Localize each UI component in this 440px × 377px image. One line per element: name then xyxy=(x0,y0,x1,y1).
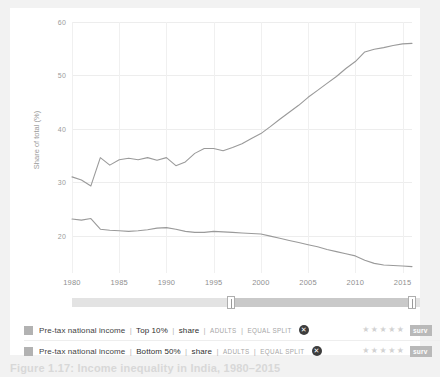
legend-separator: | xyxy=(185,347,187,356)
series-lines xyxy=(72,22,412,273)
legend-swatch xyxy=(24,347,33,356)
legend-row[interactable]: Pre-tax national income | Bottom 50% | s… xyxy=(24,340,440,361)
legend-row[interactable]: Pre-tax national income | Top 10% | shar… xyxy=(24,320,440,340)
y-tick-label: 30 xyxy=(58,179,66,186)
legend-separator: | xyxy=(216,347,218,356)
x-tick-label: 1980 xyxy=(63,278,81,287)
y-tick-label: 40 xyxy=(58,125,66,132)
legend-group: Bottom 50% xyxy=(136,347,181,356)
legend-separator: | xyxy=(130,326,132,335)
star-icon[interactable]: ★ xyxy=(362,326,369,334)
legend-group: Top 10% xyxy=(136,326,168,335)
x-tick-label: 2010 xyxy=(347,278,365,287)
star-icon[interactable]: ★ xyxy=(371,326,378,334)
legend-swatch xyxy=(24,326,33,335)
rating-stars[interactable]: ★ ★ ★ ★ ★ xyxy=(362,347,404,355)
legend-population: ADULTS xyxy=(223,348,249,355)
year-range-slider[interactable] xyxy=(72,296,420,309)
x-tick-label: 2000 xyxy=(252,278,270,287)
legend-separator: | xyxy=(204,326,206,335)
star-icon[interactable]: ★ xyxy=(371,347,378,355)
legend-separator: | xyxy=(254,347,256,356)
rating-stars[interactable]: ★ ★ ★ ★ ★ xyxy=(362,326,404,334)
legend-separator: | xyxy=(241,326,243,335)
x-tick-label: 1995 xyxy=(205,278,223,287)
y-axis-label: Share of total (%) xyxy=(32,111,41,169)
star-icon[interactable]: ★ xyxy=(379,326,386,334)
y-tick-label: 20 xyxy=(58,232,66,239)
x-tick-label: 2015 xyxy=(394,278,412,287)
series-line xyxy=(72,43,412,186)
slider-selected-range[interactable] xyxy=(235,298,408,307)
x-tick-label: 2005 xyxy=(299,278,317,287)
x-tick-label: 1985 xyxy=(110,278,128,287)
plot-area: 6050403020 19801985199019952000200520102… xyxy=(72,22,412,273)
x-tick-label: 1990 xyxy=(158,278,176,287)
source-button[interactable]: surv xyxy=(410,346,432,357)
legend-split: EQUAL SPLIT xyxy=(260,348,304,355)
legend-split: EQUAL SPLIT xyxy=(247,327,291,334)
legend-indicator: Pre-tax national income xyxy=(39,347,125,356)
remove-series-icon[interactable]: ✕ xyxy=(312,346,322,356)
star-icon[interactable]: ★ xyxy=(388,347,395,355)
slider-handle-left[interactable] xyxy=(227,296,235,309)
star-icon[interactable]: ★ xyxy=(362,347,369,355)
star-icon[interactable]: ★ xyxy=(388,326,395,334)
slider-handle-right[interactable] xyxy=(408,296,416,309)
legend-row-actions: ★ ★ ★ ★ ★ surv xyxy=(362,341,432,361)
y-tick-label: 60 xyxy=(58,19,66,26)
star-icon[interactable]: ★ xyxy=(379,347,386,355)
chart-card: 6050403020 19801985199019952000200520102… xyxy=(10,8,420,355)
star-icon[interactable]: ★ xyxy=(397,326,404,334)
legend-separator: | xyxy=(172,326,174,335)
legend-metric: share xyxy=(192,347,213,356)
source-button[interactable]: surv xyxy=(410,325,432,336)
y-tick-label: 50 xyxy=(58,72,66,79)
legend-metric: share xyxy=(179,326,200,335)
legend-label: Pre-tax national income | Top 10% | shar… xyxy=(39,326,292,335)
legend-indicator: Pre-tax national income xyxy=(39,326,125,335)
legend-row-actions: ★ ★ ★ ★ ★ surv xyxy=(362,320,432,340)
legend-population: ADULTS xyxy=(210,327,236,334)
legend-separator: | xyxy=(130,347,132,356)
star-icon[interactable]: ★ xyxy=(397,347,404,355)
legend-label: Pre-tax national income | Bottom 50% | s… xyxy=(39,347,305,356)
series-line xyxy=(72,219,412,267)
figure-caption: Figure 1.17: Income inequality in India,… xyxy=(10,362,430,374)
legend-list: Pre-tax national income | Top 10% | shar… xyxy=(24,320,440,361)
remove-series-icon[interactable]: ✕ xyxy=(299,325,309,335)
